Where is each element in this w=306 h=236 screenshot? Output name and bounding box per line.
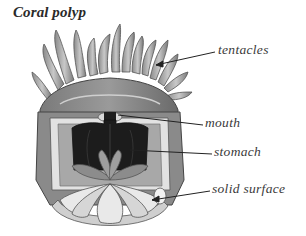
label-mouth: mouth — [205, 115, 240, 131]
label-stomach: stomach — [214, 144, 261, 160]
label-tentacles: tentacles — [218, 42, 269, 58]
label-solid-surface: solid surface — [212, 181, 285, 197]
coral-polyp-illustration — [0, 0, 306, 236]
coral-polyp-diagram: Coral polyp — [0, 0, 306, 236]
